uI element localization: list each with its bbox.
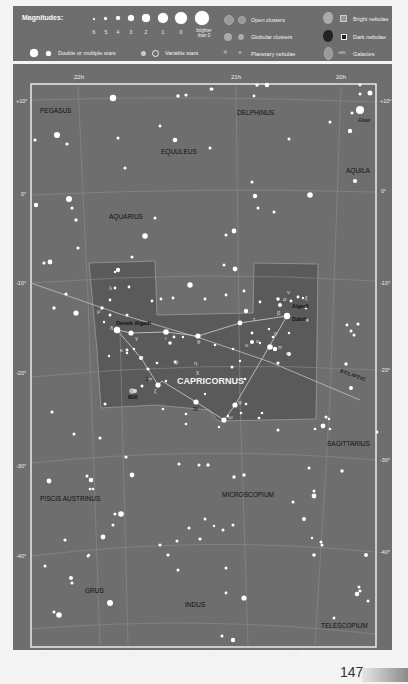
- greek-kappa: κ: [120, 347, 123, 353]
- ra-label-bottom-23h: 23h: [38, 651, 48, 657]
- constellation-equuleus: EQUULEUS: [161, 148, 197, 155]
- constellation-grus: GRUS: [85, 587, 104, 594]
- page-number: 147: [340, 664, 363, 680]
- greek-theta: θ: [197, 339, 200, 345]
- dec-label-right-minus40: -40°: [380, 549, 390, 555]
- star-chart-graphics: [0, 0, 408, 684]
- constellation-aquila: AQUILA: [346, 167, 370, 174]
- ra-label-top-21h: 21h: [231, 74, 241, 80]
- greek-iota: ι: [165, 335, 166, 341]
- greek-epsilon: ε: [141, 354, 144, 360]
- dec-label-left-minus10: -10°: [16, 280, 26, 286]
- constellation-indus: INDUS: [185, 601, 205, 608]
- constellation-sagittarius: SAGITTARIUS: [327, 440, 370, 447]
- ra-label-top-22h: 22h: [74, 74, 84, 80]
- constellation-piscis-austrinus: PISCIS AUSTRINUS: [40, 495, 100, 502]
- greek-sigma: σ: [286, 350, 290, 356]
- greek-zeta: ζ: [154, 388, 157, 394]
- constellation-microscopium: MICROSCOPIUM: [222, 491, 274, 498]
- greek-beta: β: [277, 310, 280, 316]
- constellation-telescopium: TELESCOPIUM: [321, 622, 368, 629]
- dec-label-right-minus20: -20°: [380, 367, 390, 373]
- dec-label-right-minus30: -30°: [380, 457, 390, 463]
- greek-lambda: λ: [109, 285, 112, 291]
- constellation-delphinus: DELPHINUS: [237, 109, 274, 116]
- greek-phi: φ: [238, 399, 242, 405]
- capricornus-boundary: [89, 261, 318, 421]
- constellation-capricornus: CAPRICORNUS: [177, 376, 244, 386]
- greek-upsilon: υ: [245, 342, 248, 348]
- dec-label-left-minus30: -30°: [16, 463, 26, 469]
- ra-label-bottom-21h: 21h: [210, 651, 220, 657]
- dec-label-left-0: 0°: [21, 191, 26, 197]
- greek-alpha: α: [283, 296, 286, 302]
- label-24: 24: [146, 377, 151, 382]
- ra-label-bottom-20h: 20h: [289, 651, 299, 657]
- dec-label-right-plus10: +10°: [380, 98, 392, 104]
- dec-label-right-0: 0°: [381, 188, 386, 194]
- dec-label-left-minus20: -20°: [16, 370, 26, 376]
- constellation-pegasus: PEGASUS: [40, 107, 71, 114]
- label-36: 36: [193, 407, 198, 412]
- dec-label-left-plus10: +10°: [16, 98, 28, 104]
- ra-label-top-20h: 20h: [336, 74, 346, 80]
- star-name-deneb-algedi: Deneb Algedi: [116, 320, 151, 326]
- greek-omicron: ο: [256, 338, 259, 344]
- greek-omega: ω: [228, 414, 233, 420]
- page-tab-gradient: [362, 668, 408, 682]
- greek-eta: η: [194, 360, 197, 366]
- label-m30: M30: [128, 394, 138, 400]
- dec-label-right-minus10: -10°: [380, 280, 390, 286]
- star-name-altair: Altair: [358, 117, 371, 123]
- dec-label-left-minus40: -40°: [16, 553, 26, 559]
- greek-gamma: γ: [135, 335, 138, 341]
- greek-rho: ρ: [274, 330, 277, 336]
- greek-mu: μ: [97, 308, 100, 314]
- greek-chi: χ: [196, 369, 199, 375]
- constellation-aquarius: AQUARIUS: [109, 213, 143, 220]
- greek-delta: δ: [110, 325, 113, 331]
- greek-tau: τ: [253, 316, 255, 322]
- star-name-algedi: Algedi: [292, 303, 309, 309]
- star-name-dabih: Dabih: [292, 316, 307, 322]
- greek-xi: ξ: [305, 295, 308, 301]
- greek-nu: ν: [287, 289, 290, 295]
- ra-label-bottom-22h: 22h: [126, 651, 136, 657]
- greek-psi: ψ: [174, 359, 178, 365]
- greek-pi: π: [278, 344, 282, 350]
